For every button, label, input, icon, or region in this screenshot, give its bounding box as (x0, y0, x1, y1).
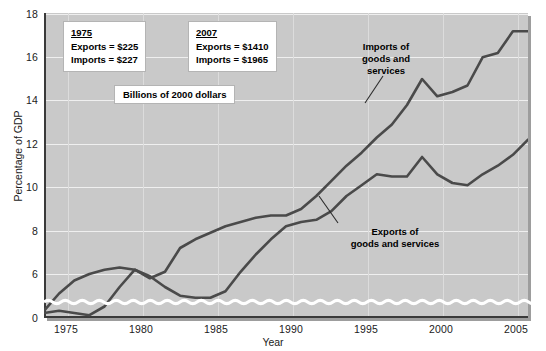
ytick-16: 16 (0, 51, 38, 63)
annotation-2007-imports: Imports = $1965 (196, 53, 269, 66)
xtick-2000: 2000 (421, 323, 461, 335)
series-line-imports (44, 31, 528, 311)
ytick-18: 18 (0, 8, 38, 20)
xtick-1990: 1990 (271, 323, 311, 335)
xtick-1995: 1995 (346, 323, 386, 335)
imports-callout-line2: goods and (362, 53, 410, 64)
annotation-2007-exports: Exports = $1410 (196, 40, 269, 53)
annotation-2007-year: 2007 (196, 26, 269, 39)
ytick-6: 6 (0, 268, 38, 280)
units-note-box: Billions of 2000 dollars (114, 85, 235, 104)
annotation-box-2007: 2007 Exports = $1410 Imports = $1965 (188, 21, 277, 72)
y-axis-title: Percentage of GDP (12, 86, 24, 226)
exports-callout-line2: goods and services (351, 238, 440, 249)
axis-break-wave (44, 300, 537, 303)
imports-callout-line3: services (367, 65, 405, 76)
xtick-1985: 1985 (196, 323, 236, 335)
ytick-0: 0 (0, 312, 38, 324)
x-axis-title: Year (0, 336, 546, 348)
xtick-1975: 1975 (46, 323, 86, 335)
ytick-8: 8 (0, 225, 38, 237)
exports-leader-line (319, 196, 338, 223)
exports-series-callout: Exports of goods and services (330, 226, 460, 250)
annotation-1975-year: 1975 (71, 26, 138, 39)
xtick-1980: 1980 (121, 323, 161, 335)
imports-callout-line1: Imports of (363, 41, 409, 52)
annotation-box-1975: 1975 Exports = $225 Imports = $227 (63, 21, 146, 72)
annotation-1975-exports: Exports = $225 (71, 40, 138, 53)
imports-leader-line (365, 76, 383, 103)
xtick-2005: 2005 (496, 323, 536, 335)
exports-callout-line1: Exports of (372, 226, 419, 237)
imports-series-callout: Imports of goods and services (338, 41, 434, 77)
annotation-1975-imports: Imports = $227 (71, 53, 138, 66)
chart-figure: 18 16 14 12 10 8 6 0 1975 1980 1985 1990… (0, 0, 546, 351)
